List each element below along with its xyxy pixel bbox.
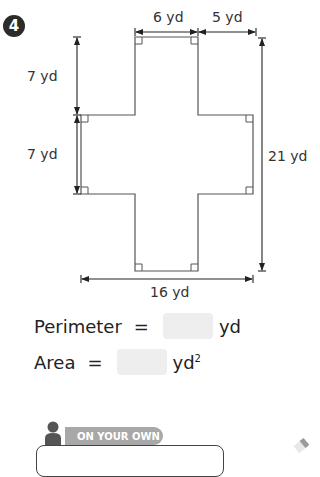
on-your-own-tab: ON YOUR OWN — [65, 427, 163, 445]
cross-shape — [81, 37, 253, 271]
area-equation: Area = yd2 — [34, 349, 201, 375]
area-label: Area — [34, 352, 75, 373]
area-unit: yd2 — [173, 352, 201, 373]
label-total-height: 21 yd — [268, 148, 307, 164]
label-left-middle-height: 7 yd — [27, 146, 58, 162]
right-angle-marks — [81, 37, 253, 271]
perimeter-label: Perimeter — [34, 316, 122, 337]
perimeter-equation: Perimeter = yd — [34, 313, 241, 339]
label-total-width: 16 yd — [150, 284, 189, 300]
area-answer-box[interactable] — [117, 349, 167, 375]
equals-sign: = — [134, 316, 149, 337]
label-left-upper-height: 7 yd — [27, 68, 58, 84]
equals-sign: = — [87, 352, 102, 373]
perimeter-answer-box[interactable] — [163, 313, 213, 339]
label-top-right-offset: 5 yd — [212, 9, 243, 25]
dimension-lines — [73, 28, 266, 283]
person-icon — [44, 421, 62, 445]
label-top-width: 6 yd — [153, 9, 184, 25]
pencil-icon — [292, 437, 312, 453]
on-your-own-box — [36, 445, 224, 477]
perimeter-unit: yd — [219, 316, 241, 337]
